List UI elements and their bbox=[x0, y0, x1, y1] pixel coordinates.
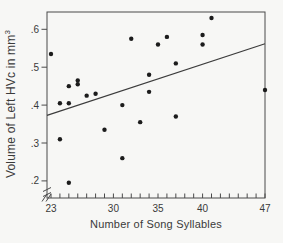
data-point bbox=[174, 114, 178, 118]
data-point bbox=[200, 42, 204, 46]
data-point bbox=[67, 101, 71, 105]
y-axis-tick-label: .6 bbox=[31, 24, 40, 35]
scatter-figure: 2330354047.2.3.4.5.6 Volume of Left HVc … bbox=[0, 0, 283, 243]
data-point bbox=[200, 33, 204, 37]
x-axis-tick-label: 23 bbox=[45, 203, 57, 214]
data-point bbox=[147, 90, 151, 94]
x-axis-tick-label: 40 bbox=[197, 203, 209, 214]
data-point bbox=[93, 92, 97, 96]
data-point bbox=[49, 52, 53, 56]
y-axis-tick-label: .3 bbox=[31, 138, 40, 149]
x-axis-title: Number of Song Syllables bbox=[90, 218, 222, 230]
data-point bbox=[147, 73, 151, 77]
data-point bbox=[263, 88, 267, 92]
x-axis-tick-label: 47 bbox=[259, 203, 271, 214]
y-axis-title-text: Volume of Left HVc in mm bbox=[4, 35, 18, 179]
data-point bbox=[102, 128, 106, 132]
data-point bbox=[67, 84, 71, 88]
y-axis-title-exponent: 3 bbox=[3, 30, 12, 35]
x-axis-tick-label: 35 bbox=[152, 203, 164, 214]
data-point bbox=[58, 101, 62, 105]
data-point bbox=[67, 181, 71, 185]
data-point bbox=[120, 103, 124, 107]
data-point bbox=[84, 93, 88, 97]
y-axis-title: Volume of Left HVc in mm3 bbox=[4, 30, 18, 178]
data-point bbox=[120, 156, 124, 160]
data-point bbox=[209, 16, 213, 20]
data-point bbox=[76, 82, 80, 86]
data-point bbox=[58, 137, 62, 141]
data-point bbox=[174, 61, 178, 65]
scatter-chart: 2330354047.2.3.4.5.6 bbox=[0, 0, 283, 243]
data-point bbox=[138, 120, 142, 124]
y-axis-tick-label: .5 bbox=[31, 62, 40, 73]
data-point bbox=[156, 42, 160, 46]
data-point bbox=[129, 37, 133, 41]
x-axis-tick-label: 30 bbox=[108, 203, 120, 214]
data-point bbox=[76, 78, 80, 82]
data-point bbox=[165, 35, 169, 39]
y-axis-tick-label: .4 bbox=[31, 100, 40, 111]
y-axis-tick-label: .2 bbox=[31, 175, 40, 186]
